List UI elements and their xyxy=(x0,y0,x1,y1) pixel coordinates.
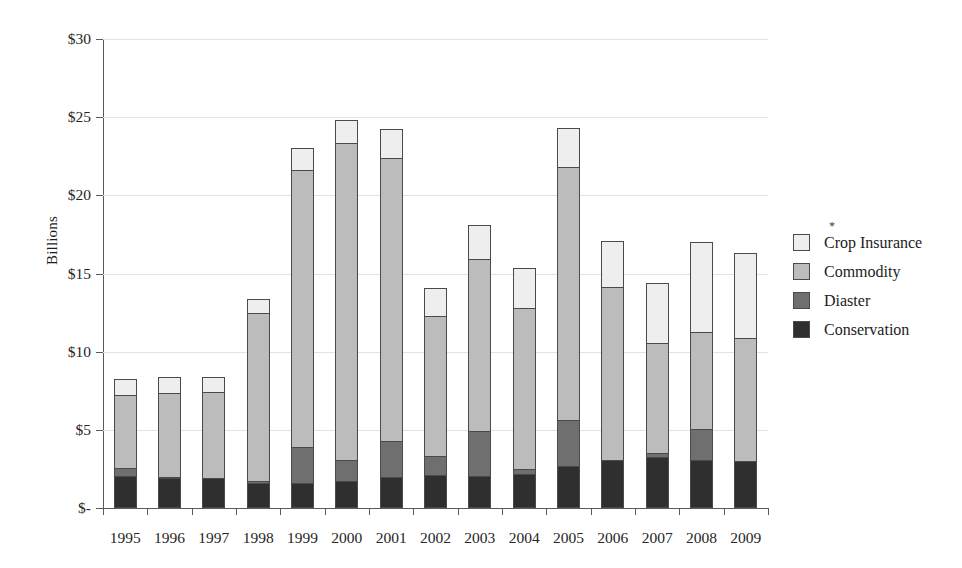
x-axis-tick-mark xyxy=(458,508,459,515)
bar-2008 xyxy=(690,39,713,508)
legend-swatch-commodity xyxy=(793,263,810,280)
bar-segment-2005-crop-insurance xyxy=(557,128,580,167)
legend-item-conservation[interactable]: Conservation xyxy=(793,315,922,344)
y-axis-tick-mark xyxy=(96,430,103,431)
x-axis-tick-label: 2007 xyxy=(632,530,682,546)
x-axis-tick-label: 2006 xyxy=(588,530,638,546)
bar-segment-1997-commodity xyxy=(202,392,225,478)
bar-segment-2000-commodity xyxy=(335,143,358,460)
legend-label: Conservation xyxy=(824,322,909,338)
bar-segment-2001-conservation xyxy=(380,477,403,508)
legend-item-diaster[interactable]: Diaster xyxy=(793,286,922,315)
legend-item-crop-insurance[interactable]: *Crop Insurance xyxy=(793,228,922,257)
bar-segment-1995-crop-insurance xyxy=(114,379,137,395)
bar-2009 xyxy=(734,39,757,508)
x-axis-tick-label: 2008 xyxy=(677,530,727,546)
bar-segment-2000-conservation xyxy=(335,481,358,508)
bar-segment-2007-diaster xyxy=(646,453,669,457)
x-axis-tick-mark xyxy=(147,508,148,515)
bar-segment-1998-commodity xyxy=(247,313,270,482)
bar-segment-1996-conservation xyxy=(158,478,181,508)
bar-segment-1995-commodity xyxy=(114,395,137,468)
bar-segment-2003-crop-insurance xyxy=(468,225,491,259)
bar-segment-2000-diaster xyxy=(335,460,358,482)
bar-segment-2005-conservation xyxy=(557,466,580,508)
legend-label: Commodity xyxy=(824,264,900,280)
x-axis-tick-label: 1998 xyxy=(233,530,283,546)
stacked-bar-chart: Billions $30$25$20$15$10$5$- 19951996199… xyxy=(0,0,962,568)
x-axis-tick-mark xyxy=(679,508,680,515)
bar-segment-1997-diaster xyxy=(202,478,225,479)
bar-segment-1995-conservation xyxy=(114,476,137,508)
y-axis-tick-label: $25 xyxy=(37,109,91,125)
bar-2003 xyxy=(468,39,491,508)
bar-1998 xyxy=(247,39,270,508)
x-axis-tick-label: 2000 xyxy=(322,530,372,546)
bar-segment-2006-conservation xyxy=(601,460,624,508)
x-axis-tick-label: 1999 xyxy=(278,530,328,546)
x-axis-tick-mark xyxy=(635,508,636,515)
bar-segment-2007-commodity xyxy=(646,343,669,453)
y-axis-tick-mark xyxy=(96,39,103,40)
bar-segment-2002-diaster xyxy=(424,456,447,475)
bar-segment-2007-crop-insurance xyxy=(646,283,669,343)
bar-2001 xyxy=(380,39,403,508)
bar-segment-2009-commodity xyxy=(734,338,757,461)
bar-segment-2001-crop-insurance xyxy=(380,129,403,158)
legend-label: Diaster xyxy=(824,293,870,309)
bar-1997 xyxy=(202,39,225,508)
y-axis-tick-mark xyxy=(96,352,103,353)
x-axis-tick-label: 1996 xyxy=(145,530,195,546)
x-axis-tick-mark xyxy=(325,508,326,515)
bar-1995 xyxy=(114,39,137,508)
y-axis-tick-label: $- xyxy=(37,500,91,516)
legend-item-commodity[interactable]: Commodity xyxy=(793,257,922,286)
bar-segment-2005-diaster xyxy=(557,420,580,466)
bar-segment-2003-diaster xyxy=(468,431,491,476)
bar-segment-1999-conservation xyxy=(291,483,314,508)
bar-segment-2004-crop-insurance xyxy=(513,268,536,308)
x-axis-tick-mark xyxy=(413,508,414,515)
bar-segment-2003-conservation xyxy=(468,476,491,508)
x-axis-tick-mark xyxy=(546,508,547,515)
bar-segment-2004-diaster xyxy=(513,469,536,474)
y-axis-tick-label: $30 xyxy=(37,31,91,47)
x-axis-tick-label: 2009 xyxy=(721,530,771,546)
bar-segment-1996-diaster xyxy=(158,477,181,478)
x-axis-tick-mark xyxy=(280,508,281,515)
y-axis-tick-mark xyxy=(96,117,103,118)
bar-segment-1997-crop-insurance xyxy=(202,377,225,392)
x-axis-tick-mark xyxy=(369,508,370,515)
y-axis-tick-label: $10 xyxy=(37,344,91,360)
bar-segment-1996-crop-insurance xyxy=(158,377,181,393)
bar-segment-1999-diaster xyxy=(291,447,314,483)
bar-segment-2001-diaster xyxy=(380,441,403,477)
y-axis-tick-label: $20 xyxy=(37,187,91,203)
x-axis-tick-mark xyxy=(103,508,104,515)
bar-segment-2008-diaster xyxy=(690,429,713,460)
legend-label: Crop Insurance xyxy=(824,235,922,251)
y-axis-tick-mark xyxy=(96,195,103,196)
bar-segment-1997-conservation xyxy=(202,478,225,508)
x-axis-tick-mark xyxy=(591,508,592,515)
bar-segment-2001-commodity xyxy=(380,158,403,441)
bar-2000 xyxy=(335,39,358,508)
bar-2007 xyxy=(646,39,669,508)
bar-segment-2006-crop-insurance xyxy=(601,241,624,286)
x-axis-tick-mark xyxy=(236,508,237,515)
y-axis-tick-mark xyxy=(96,274,103,275)
legend-swatch-diaster xyxy=(793,292,810,309)
bar-segment-2009-conservation xyxy=(734,461,757,508)
bar-segment-2000-crop-insurance xyxy=(335,120,358,143)
x-axis-tick-mark xyxy=(192,508,193,515)
bar-segment-2004-conservation xyxy=(513,474,536,508)
bar-1996 xyxy=(158,39,181,508)
bar-segment-2007-conservation xyxy=(646,457,669,508)
x-axis-tick-label: 2005 xyxy=(544,530,594,546)
x-axis-tick-mark xyxy=(768,508,769,515)
bar-segment-1999-crop-insurance xyxy=(291,148,314,170)
x-axis-tick-mark xyxy=(724,508,725,515)
bar-segment-2002-conservation xyxy=(424,475,447,508)
x-axis-tick-label: 1997 xyxy=(189,530,239,546)
bar-segment-2008-crop-insurance xyxy=(690,242,713,332)
